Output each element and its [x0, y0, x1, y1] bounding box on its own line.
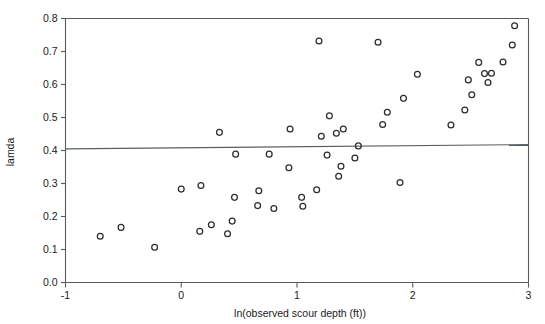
data-point [152, 244, 158, 250]
scatter-plot-figure: 0.00.10.20.30.40.50.60.70.8 -10123 lamda… [0, 0, 545, 324]
data-point [286, 165, 292, 171]
data-point [397, 180, 403, 186]
data-point [255, 203, 261, 209]
plot-canvas: 0.00.10.20.30.40.50.60.70.8 -10123 lamda… [0, 0, 545, 324]
y-tick-label: 0.6 [43, 78, 58, 90]
y-axis-ticks: 0.00.10.20.30.40.50.60.70.8 [43, 12, 66, 288]
data-point [225, 231, 231, 237]
y-tick-label: 0.1 [43, 243, 58, 255]
data-point [333, 130, 339, 136]
data-point [316, 38, 322, 44]
data-point [482, 71, 488, 77]
data-point [233, 151, 239, 157]
data-point [178, 186, 184, 192]
x-axis-ticks: -10123 [61, 283, 532, 301]
data-point [336, 173, 342, 179]
x-tick-label: 3 [526, 289, 532, 301]
x-tick-label: -1 [61, 289, 70, 301]
y-axis-title: lamda [4, 138, 16, 167]
data-point [340, 126, 346, 132]
data-point [314, 187, 320, 193]
y-tick-label: 0.8 [43, 12, 58, 24]
reference-line-group [66, 145, 529, 149]
data-point [287, 126, 293, 132]
y-tick-label: 0.0 [43, 276, 58, 288]
data-point [462, 107, 468, 113]
data-point [500, 59, 506, 65]
data-point [327, 113, 333, 119]
x-tick-label: 1 [294, 289, 300, 301]
data-point [229, 218, 235, 224]
data-point [401, 95, 407, 101]
y-tick-label: 0.3 [43, 177, 58, 189]
data-point [384, 109, 390, 115]
data-point [469, 92, 475, 98]
y-tick-label: 0.7 [43, 45, 58, 57]
data-point [271, 206, 277, 212]
data-point [97, 233, 103, 239]
data-point [198, 183, 204, 189]
y-tick-label: 0.4 [43, 144, 58, 156]
data-point [197, 228, 203, 234]
y-tick-label: 0.2 [43, 210, 58, 222]
data-point [485, 80, 491, 86]
x-axis-title: ln(observed scour depth (ft)) [234, 307, 366, 319]
data-point [352, 155, 358, 161]
data-point [208, 222, 214, 228]
data-point [338, 163, 344, 169]
data-point [509, 42, 515, 48]
data-point [256, 188, 262, 194]
data-point [217, 129, 223, 135]
data-point [465, 77, 471, 83]
data-point [118, 224, 124, 230]
data-point [380, 122, 386, 128]
y-tick-label: 0.5 [43, 111, 58, 123]
data-point [414, 71, 420, 77]
data-point [266, 151, 272, 157]
data-point [232, 194, 238, 200]
horizontal-threshold-line [66, 145, 529, 149]
plot-frame [66, 19, 529, 283]
x-tick-label: 0 [178, 289, 184, 301]
data-point [324, 152, 330, 158]
data-point [375, 39, 381, 45]
data-point [476, 59, 482, 65]
x-tick-label: 2 [410, 289, 416, 301]
data-points-group [97, 23, 517, 250]
data-point [300, 203, 306, 209]
data-point [299, 194, 305, 200]
data-point [318, 133, 324, 139]
data-point [448, 122, 454, 128]
data-point [489, 70, 495, 76]
data-point [512, 23, 518, 29]
